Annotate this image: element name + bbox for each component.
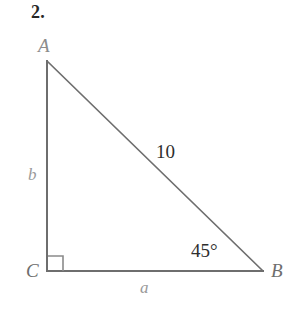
side-label-a: a [140,279,149,296]
side-label-b: b [28,166,37,183]
right-triangle-figure: 2. A B C b a 10 45° [0,0,296,315]
vertex-label-b: B [271,261,283,280]
angle-label-b: 45° [191,241,218,260]
right-angle-square-icon [48,256,63,271]
vertex-label-c: C [26,261,39,280]
vertex-label-a: A [38,36,50,55]
side-label-hypotenuse: 10 [156,142,175,161]
side-hypotenuse [47,61,263,271]
